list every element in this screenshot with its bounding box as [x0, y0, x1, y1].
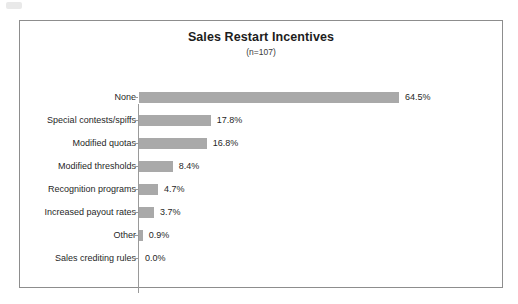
- axis-tick: [133, 212, 138, 213]
- category-label: Other: [0, 224, 136, 247]
- axis-tick: [133, 97, 138, 98]
- bar: [139, 161, 173, 172]
- bar-row: Increased payout rates 3.7%: [20, 201, 504, 224]
- bar-value-label: 8.4%: [173, 161, 200, 172]
- bar-row: None 64.5%: [20, 86, 504, 109]
- plot-area: None 64.5% Special contests/spiffs 17.8%…: [20, 86, 504, 281]
- category-label: Sales crediting rules: [0, 247, 136, 270]
- page-title: Sales Restart Incentives: [20, 30, 502, 45]
- bar-group: 16.8%: [139, 138, 238, 149]
- bar-group: 0.9%: [139, 230, 169, 241]
- category-label: Increased payout rates: [0, 201, 136, 224]
- bar: [139, 138, 207, 149]
- bar-row: Other 0.9%: [20, 224, 504, 247]
- axis-tick: [133, 166, 138, 167]
- bar-value-label: 64.5%: [399, 92, 431, 103]
- bar: [139, 115, 211, 126]
- bar-group: 17.8%: [139, 115, 242, 126]
- bar-value-label: 0.0%: [139, 253, 166, 264]
- chart-frame: Sales Restart Incentives (n=107) None 64…: [19, 20, 503, 288]
- bar: [139, 92, 399, 103]
- bar-group: 8.4%: [139, 161, 199, 172]
- axis-tick: [133, 189, 138, 190]
- chart-title-block: Sales Restart Incentives (n=107): [20, 30, 502, 58]
- bar: [139, 184, 158, 195]
- axis-tick: [133, 235, 138, 236]
- axis-tick: [133, 120, 138, 121]
- bar-value-label: 4.7%: [158, 184, 185, 195]
- category-label: Modified thresholds: [0, 155, 136, 178]
- bar-value-label: 17.8%: [211, 115, 243, 126]
- bar-row: Sales crediting rules 0.0%: [20, 247, 504, 270]
- category-label: Recognition programs: [0, 178, 136, 201]
- bar-row: Modified quotas 16.8%: [20, 132, 504, 155]
- bar-value-label: 16.8%: [207, 138, 239, 149]
- category-label: Modified quotas: [0, 132, 136, 155]
- axis-tick: [133, 258, 138, 259]
- bar-group: 64.5%: [139, 92, 431, 103]
- bar-row: Recognition programs 4.7%: [20, 178, 504, 201]
- category-label: None: [0, 86, 136, 109]
- bar-row: Special contests/spiffs 17.8%: [20, 109, 504, 132]
- bar-row: Modified thresholds 8.4%: [20, 155, 504, 178]
- category-label: Special contests/spiffs: [0, 109, 136, 132]
- bar-value-label: 0.9%: [143, 230, 170, 241]
- chart-subtitle: (n=107): [20, 46, 502, 58]
- axis-tick: [133, 143, 138, 144]
- bar: [139, 207, 154, 218]
- bar-group: 0.0%: [139, 253, 166, 264]
- scan-artifact: [6, 2, 22, 9]
- bar-group: 3.7%: [139, 207, 180, 218]
- bar-group: 4.7%: [139, 184, 184, 195]
- bar-value-label: 3.7%: [154, 207, 181, 218]
